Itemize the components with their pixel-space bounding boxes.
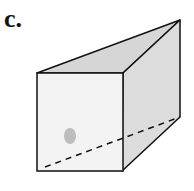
solid-figure: [0, 0, 194, 191]
smudge: [64, 128, 76, 144]
front-face: [37, 73, 123, 171]
